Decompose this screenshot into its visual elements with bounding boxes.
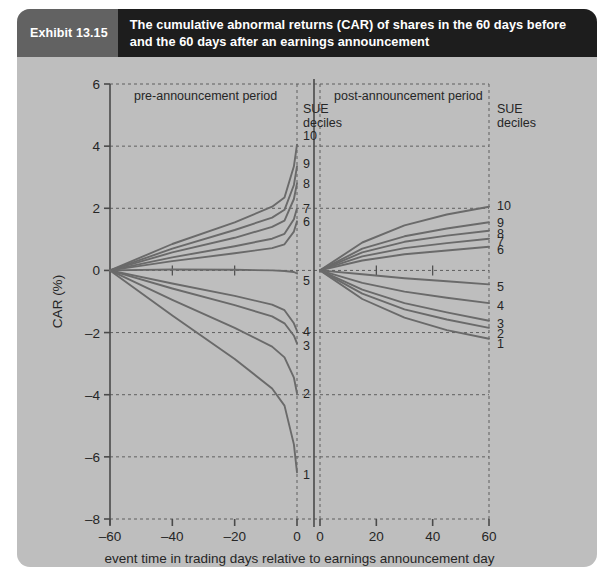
series-pre-decile-9 [110, 166, 297, 270]
decile-label-left-1: 1 [303, 468, 310, 482]
decile-label-right-9: 9 [497, 216, 504, 230]
y-tick-label-–8: –8 [85, 512, 100, 527]
series-post-decile-1 [320, 270, 489, 338]
x-tick-label-pre-–60: –60 [99, 529, 122, 544]
decile-label-left-7: 7 [303, 202, 310, 216]
decile-label-left-6: 6 [303, 215, 310, 229]
sue-deciles-title-right-line1: SUE [497, 102, 523, 116]
y-tick-label-6: 6 [92, 77, 100, 92]
x-tick-label-post-60: 60 [481, 529, 496, 544]
x-tick-label-pre-0: 0 [293, 529, 301, 544]
chart-area: 6420–2–4–6–8–60–40–2000204060 pre-announ… [17, 57, 597, 567]
sue-deciles-title-left-line1: SUE [303, 102, 329, 116]
y-tick-label-2: 2 [92, 201, 100, 216]
decile-label-right-5: 5 [497, 280, 504, 294]
x-tick-label-post-40: 40 [425, 529, 440, 544]
exhibit-number: Exhibit 13.15 [17, 9, 118, 57]
series-layer [110, 145, 489, 473]
car-line-chart: 6420–2–4–6–8–60–40–2000204060 pre-announ… [17, 57, 597, 567]
decile-label-left-5: 5 [303, 274, 310, 288]
series-post-decile-10 [320, 207, 489, 271]
post-announcement-panel-label: post-announcement period [334, 89, 483, 103]
decile-label-right-10: 10 [497, 199, 511, 213]
y-tick-label-–6: –6 [85, 450, 100, 465]
decile-label-right-4: 4 [497, 299, 504, 313]
decile-label-left-4: 4 [303, 325, 310, 339]
decile-label-left-10: 10 [303, 129, 317, 143]
x-axis-title: event time in trading days relative to e… [104, 551, 494, 566]
decile-label-left-9: 9 [303, 157, 310, 171]
y-tick-label-–4: –4 [85, 388, 101, 403]
decile-label-left-2: 2 [303, 387, 310, 401]
x-tick-label-post-0: 0 [316, 529, 324, 544]
series-pre-decile-1 [110, 270, 297, 472]
y-tick-label-4: 4 [92, 139, 100, 154]
y-tick-label-0: 0 [92, 263, 100, 278]
series-pre-decile-5 [110, 270, 297, 274]
exhibit-header: Exhibit 13.15 The cumulative abnormal re… [17, 9, 597, 57]
decile-label-left-3: 3 [303, 339, 310, 353]
x-tick-label-post-20: 20 [369, 529, 384, 544]
y-tick-label-–2: –2 [85, 326, 100, 341]
exhibit-title: The cumulative abnormal returns (CAR) of… [118, 9, 597, 57]
sue-deciles-title-left-line2: deciles [303, 116, 342, 130]
decile-label-left-8: 8 [303, 177, 310, 191]
decile-label-right-3: 3 [497, 317, 504, 331]
y-axis-title: CAR (%) [50, 275, 65, 328]
sue-deciles-title-right-line2: deciles [497, 116, 536, 130]
exhibit-figure: Exhibit 13.15 The cumulative abnormal re… [0, 0, 613, 587]
x-tick-label-pre-–20: –20 [223, 529, 246, 544]
series-post-decile-9 [320, 222, 489, 270]
grid-layer [110, 84, 489, 519]
label-layer: pre-announcement periodpost-announcement… [50, 89, 536, 566]
pre-announcement-panel-label: pre-announcement period [134, 89, 277, 103]
x-tick-label-pre-–40: –40 [161, 529, 184, 544]
